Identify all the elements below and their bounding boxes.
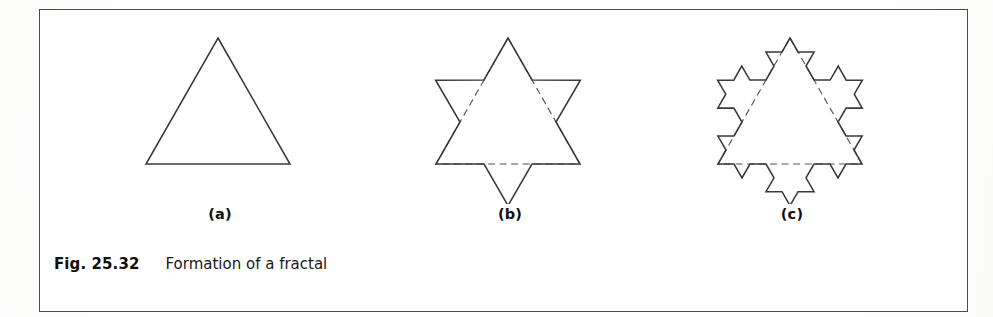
guide-triangle-b [436,38,580,164]
koch-svg-a [100,24,340,204]
figure-page: (a) (b) (c) Fig. 25.32 Formation of a fr… [0,0,993,317]
figure-frame: (a) (b) (c) Fig. 25.32 Formation of a fr… [39,9,968,312]
guide-triangle-c [718,38,862,164]
koch-svg-c [672,24,912,204]
figure-panel-b: (b) [390,24,630,234]
koch-outline-b [436,38,581,204]
koch-outline-a [146,38,290,164]
caption-figure-number: Fig. 25.32 [54,255,140,273]
panel-label-c: (c) [672,206,912,222]
figure-caption: Fig. 25.32 Formation of a fractal [54,255,327,273]
panel-label-a: (a) [100,206,340,222]
koch-svg-b [390,24,630,204]
figure-panel-c: (c) [672,24,912,234]
figure-panel-a: (a) [100,24,340,234]
caption-title: Formation of a fractal [166,255,328,273]
koch-outline-c [718,38,863,204]
panel-label-b: (b) [390,206,630,222]
